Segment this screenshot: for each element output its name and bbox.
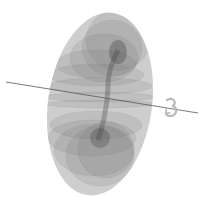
torus-svg <box>0 0 202 197</box>
sweep-circles <box>46 10 154 186</box>
curved-rotation-arrow-icon <box>166 99 176 116</box>
torus-figure <box>0 0 202 197</box>
